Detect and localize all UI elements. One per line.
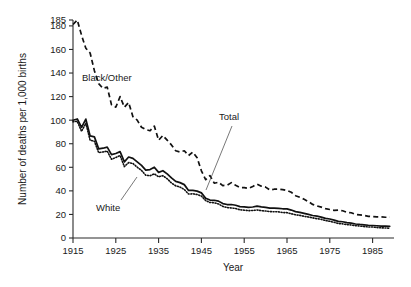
y-tick-label: 120 <box>50 91 66 102</box>
y-axis-ticks: 020406080100120140160180185 <box>50 14 73 243</box>
y-axis-title: Number of deaths per 1,000 births <box>17 53 28 205</box>
x-tick-label: 1925 <box>105 245 126 256</box>
y-tick-label: 185 <box>50 14 66 25</box>
y-tick-label: 20 <box>55 209 66 220</box>
y-tick-label: 40 <box>55 185 66 196</box>
y-tick-label: 140 <box>50 67 66 78</box>
x-tick-label: 1955 <box>234 245 255 256</box>
x-tick-label: 1935 <box>148 245 169 256</box>
x-axis-title: Year <box>223 262 244 273</box>
y-tick-label: 0 <box>61 232 66 243</box>
y-tick-label: 160 <box>50 44 66 55</box>
leader-line-total <box>206 126 232 190</box>
x-tick-label: 1915 <box>62 245 83 256</box>
x-axis-ticks: 19151925193519451955196519751985 <box>62 238 383 256</box>
y-tick-label: 60 <box>55 162 66 173</box>
x-tick-label: 1985 <box>362 245 383 256</box>
leader-line-white <box>121 177 137 200</box>
y-tick-label: 100 <box>50 115 66 126</box>
x-tick-label: 1965 <box>276 245 297 256</box>
chart-figure: 020406080100120140160180185 191519251935… <box>0 0 411 287</box>
line-chart-canvas: 020406080100120140160180185 191519251935… <box>0 0 411 287</box>
annotation-black-other: Black/Other <box>82 72 132 83</box>
series-line-white <box>73 121 390 228</box>
x-tick-label: 1945 <box>191 245 212 256</box>
annotation-white: White <box>96 202 120 213</box>
annotation-total: Total <box>219 111 239 122</box>
y-tick-label: 80 <box>55 138 66 149</box>
x-tick-label: 1975 <box>319 245 340 256</box>
